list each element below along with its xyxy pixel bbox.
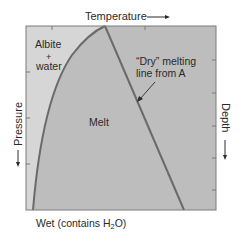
temperature-arrow-icon — [147, 15, 170, 19]
temperature-axis-label: Temperature — [85, 10, 147, 22]
melt-label: Melt — [89, 116, 109, 128]
dry-line-annotation-line1: “Dry” melting — [136, 55, 196, 67]
albite-label: Albite — [35, 38, 61, 50]
wet-label: Wet (contains H2O) — [36, 217, 126, 231]
depth-axis-label: Depth — [220, 103, 232, 132]
water-label: water — [35, 60, 62, 72]
dry-line-annotation-line2: line from A — [136, 67, 186, 79]
pressure-arrow-icon — [16, 150, 20, 167]
wet-label-suffix: O) — [115, 217, 127, 229]
pressure-axis-label: Pressure — [12, 102, 24, 146]
wet-label-prefix: Wet (contains H — [36, 217, 111, 229]
phase-diagram: Temperature Pressure Depth Albite + wate… — [0, 0, 244, 243]
depth-arrow-icon — [223, 140, 227, 160]
